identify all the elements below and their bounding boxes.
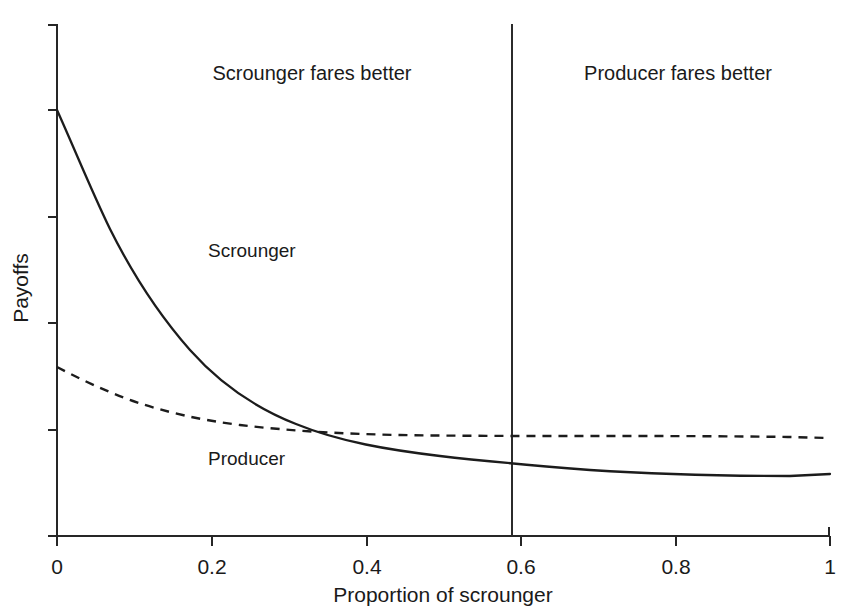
x-axis-tick-labels: 0 0.2 0.4 0.6 0.8 1 xyxy=(51,555,836,578)
x-tick-label-1: 1 xyxy=(824,555,836,578)
chart-figure: 0 0.2 0.4 0.6 0.8 1 Proportion of scroun… xyxy=(0,0,859,613)
scrounger-payoff-curve xyxy=(57,110,830,476)
payoff-line-chart: 0 0.2 0.4 0.6 0.8 1 Proportion of scroun… xyxy=(0,0,859,613)
x-tick-label-0p2: 0.2 xyxy=(197,555,226,578)
x-tick-label-0p6: 0.6 xyxy=(506,555,535,578)
y-axis-title: Payoffs xyxy=(9,253,32,323)
series-label-scrounger: Scrounger xyxy=(208,240,296,261)
x-axis-title: Proportion of scrounger xyxy=(333,583,552,606)
region-label-scrounger-fares-better: Scrounger fares better xyxy=(213,62,412,84)
axes-group xyxy=(48,24,830,536)
producer-payoff-curve xyxy=(57,367,830,438)
x-axis-ticks xyxy=(57,536,830,546)
y-axis-ticks xyxy=(48,110,57,536)
series-label-producer: Producer xyxy=(208,448,286,469)
x-tick-label-0: 0 xyxy=(51,555,63,578)
x-tick-label-0p8: 0.8 xyxy=(661,555,690,578)
x-tick-label-0p4: 0.4 xyxy=(352,555,382,578)
region-label-producer-fares-better: Producer fares better xyxy=(584,62,772,84)
